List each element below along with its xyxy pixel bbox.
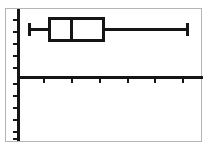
boxplot-upper-whisker-cap — [186, 23, 189, 36]
boxplot-series-layer — [0, 0, 208, 150]
boxplot-lower-whisker — [28, 28, 48, 31]
plot-area — [0, 0, 208, 150]
boxplot-upper-whisker — [105, 28, 188, 31]
boxplot-median-line — [70, 17, 73, 42]
boxplot-quartile-box — [48, 17, 105, 42]
boxplot-lower-whisker-cap — [28, 23, 31, 36]
boxplot-figure — [0, 0, 208, 150]
